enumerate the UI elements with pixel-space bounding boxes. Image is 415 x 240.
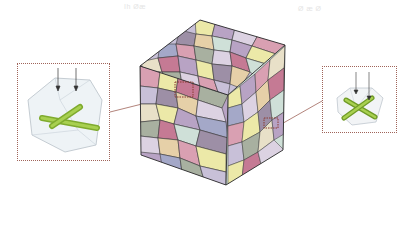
right-connector-line (278, 101, 322, 126)
left-inset-frame (17, 63, 110, 161)
right-inset-frame (322, 66, 397, 133)
